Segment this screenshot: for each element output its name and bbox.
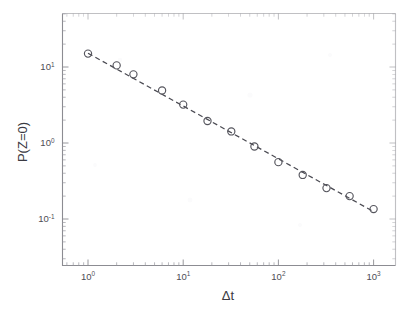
x-axis-title: Δt [222, 288, 235, 303]
figure-canvas: 100101102103 10110010-1 Δt P(Z=0) [0, 0, 415, 312]
log-log-scatter-chart: 100101102103 10110010-1 Δt P(Z=0) [0, 0, 415, 312]
y-axis-title: P(Z=0) [15, 122, 30, 162]
